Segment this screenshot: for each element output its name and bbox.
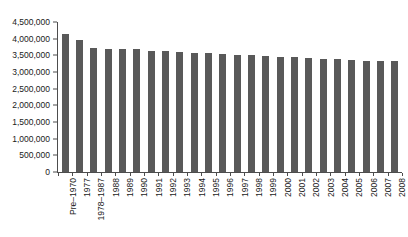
x-axis-tick-mark bbox=[58, 173, 59, 176]
x-axis-tick-mark bbox=[244, 173, 245, 176]
bar bbox=[162, 51, 169, 172]
bar bbox=[219, 54, 226, 172]
x-axis-tick-mark bbox=[373, 173, 374, 176]
bar bbox=[277, 57, 284, 172]
y-axis-tick-label: 1,500,000 bbox=[12, 118, 50, 127]
x-axis-tick-mark bbox=[273, 173, 274, 176]
x-axis-tick-mark bbox=[101, 173, 102, 176]
bar bbox=[133, 49, 140, 172]
y-axis-tick-label: 2,500,000 bbox=[12, 84, 50, 93]
y-axis-tick-label: 1,000,000 bbox=[12, 134, 50, 143]
x-axis-tick-label: 1988 bbox=[112, 178, 121, 197]
bar bbox=[234, 55, 241, 172]
x-axis-tick-label: 1990 bbox=[140, 178, 149, 197]
y-axis-tick-label: 2,000,000 bbox=[12, 101, 50, 110]
bar bbox=[262, 56, 269, 172]
x-axis-tick-label: 2007 bbox=[384, 178, 393, 197]
x-axis-tick-label: 2008 bbox=[398, 178, 407, 197]
x-axis-tick-mark bbox=[388, 173, 389, 176]
y-axis-tick-label: 4,000,000 bbox=[12, 34, 50, 43]
x-axis-tick-mark bbox=[230, 173, 231, 176]
x-axis-tick-label: 1998 bbox=[255, 178, 264, 197]
y-axis-tick-label: 0 bbox=[45, 168, 50, 177]
x-axis-tick-mark bbox=[216, 173, 217, 176]
x-axis-tick-label: 2004 bbox=[341, 178, 350, 197]
x-axis-tick-label: 1993 bbox=[183, 178, 192, 197]
x-axis-tick-label: 2000 bbox=[284, 178, 293, 197]
bar bbox=[76, 40, 83, 172]
x-axis-tick-mark bbox=[201, 173, 202, 176]
x-axis-tick-label: 1992 bbox=[169, 178, 178, 197]
x-axis-tick-label: 1978–1987 bbox=[97, 178, 106, 221]
x-axis-tick-mark bbox=[330, 173, 331, 176]
bar bbox=[348, 60, 355, 172]
bars-layer bbox=[58, 22, 402, 172]
x-axis-tick-label: 1994 bbox=[198, 178, 207, 197]
x-axis-tick-label: 2003 bbox=[327, 178, 336, 197]
bar bbox=[191, 53, 198, 172]
x-axis-tick-label: 2006 bbox=[370, 178, 379, 197]
y-axis-tick-label: 3,500,000 bbox=[12, 51, 50, 60]
x-axis-tick-mark bbox=[72, 173, 73, 176]
bar bbox=[320, 59, 327, 172]
bar bbox=[62, 34, 69, 172]
plot-area bbox=[58, 22, 402, 172]
bar bbox=[377, 61, 384, 172]
x-axis-tick-mark bbox=[173, 173, 174, 176]
x-axis-tick-label: 2005 bbox=[355, 178, 364, 197]
x-axis-tick-label: 2001 bbox=[298, 178, 307, 197]
x-axis-tick-mark bbox=[144, 173, 145, 176]
x-axis-ticks bbox=[58, 173, 402, 177]
x-axis-tick-mark bbox=[287, 173, 288, 176]
bar bbox=[248, 55, 255, 172]
bar bbox=[334, 59, 341, 172]
bar bbox=[363, 61, 370, 172]
y-axis-tick-label: 500,000 bbox=[19, 151, 50, 160]
bar bbox=[176, 52, 183, 172]
x-axis-tick-mark bbox=[259, 173, 260, 176]
x-axis-tick-mark bbox=[130, 173, 131, 176]
x-axis-tick-mark bbox=[302, 173, 303, 176]
x-axis-tick-mark bbox=[115, 173, 116, 176]
bar bbox=[119, 49, 126, 172]
x-axis-tick-label: 1997 bbox=[241, 178, 250, 197]
x-axis-tick-label: 1999 bbox=[269, 178, 278, 197]
x-axis-tick-label: Pre–1970 bbox=[69, 178, 78, 215]
x-axis-tick-mark bbox=[316, 173, 317, 176]
x-axis-tick-mark bbox=[187, 173, 188, 176]
bar bbox=[391, 61, 398, 172]
y-axis-tick-label: 3,000,000 bbox=[12, 68, 50, 77]
x-axis-tick-mark bbox=[87, 173, 88, 176]
x-axis-tick-mark bbox=[359, 173, 360, 176]
bar bbox=[105, 49, 112, 172]
x-axis-tick-mark bbox=[402, 173, 403, 176]
x-axis-tick-mark bbox=[158, 173, 159, 176]
x-axis-tick-label: 1995 bbox=[212, 178, 221, 197]
x-axis-tick-label: 2002 bbox=[312, 178, 321, 197]
x-axis-tick-label: 1977 bbox=[83, 178, 92, 197]
y-axis: 0500,0001,000,0001,500,0002,000,0002,500… bbox=[0, 0, 57, 237]
x-axis-tick-label: 1989 bbox=[126, 178, 135, 197]
x-axis-tick-label: 1996 bbox=[226, 178, 235, 197]
bar bbox=[205, 53, 212, 172]
x-axis-tick-label: 1991 bbox=[155, 178, 164, 197]
bar bbox=[148, 51, 155, 172]
y-axis-tick-label: 4,500,000 bbox=[12, 18, 50, 27]
bar bbox=[90, 48, 97, 172]
bar-chart: 0500,0001,000,0001,500,0002,000,0002,500… bbox=[0, 0, 408, 237]
bar bbox=[291, 57, 298, 172]
x-axis: Pre–197019771978–19871988198919901991199… bbox=[58, 178, 402, 237]
x-axis-tick-mark bbox=[345, 173, 346, 176]
bar bbox=[305, 58, 312, 172]
